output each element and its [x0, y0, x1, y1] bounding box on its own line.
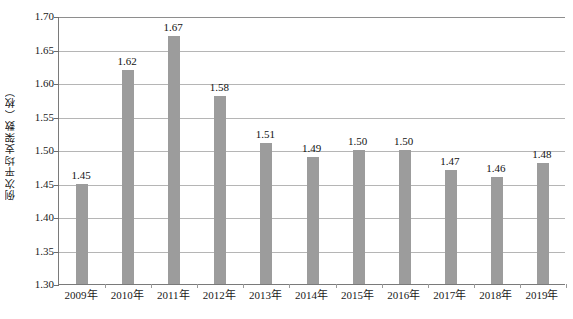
y-axis-tick-label: 1.60	[24, 78, 54, 89]
bar-value-label: 1.50	[336, 136, 380, 147]
bar-value-label: 1.49	[290, 143, 334, 154]
bar-value-label: 1.67	[151, 22, 195, 33]
y-axis-tick-label: 1.65	[24, 45, 54, 56]
bar-chart-figure: 例次平均支架数（枚） 1.301.351.401.451.501.551.601…	[0, 0, 573, 319]
y-axis-tick-label: 1.45	[24, 179, 54, 190]
x-axis-tick-label: 2019年	[512, 289, 572, 301]
bar-value-label: 1.51	[243, 129, 287, 140]
bar-value-label: 1.62	[105, 56, 149, 67]
bar-value-label: 1.50	[382, 136, 426, 147]
y-axis-title-text: 例次平均支架数（枚）	[3, 85, 18, 200]
y-axis-tick-labels: 1.301.351.401.451.501.551.601.651.70	[20, 0, 54, 319]
y-axis-title: 例次平均支架数（枚）	[0, 0, 20, 285]
bar-value-label: 1.46	[474, 163, 518, 174]
x-axis-tick-labels: 2009年2010年2011年2012年2013年2014年2015年2016年…	[58, 0, 565, 319]
bar-value-label: 1.45	[59, 170, 103, 181]
bar-value-label: 1.48	[520, 149, 564, 160]
bar-value-label: 1.47	[428, 156, 472, 167]
y-axis-tick-label: 1.40	[24, 212, 54, 223]
y-axis-tick-label: 1.70	[24, 11, 54, 22]
y-axis-tick-label: 1.35	[24, 246, 54, 257]
bar-value-label: 1.58	[197, 82, 241, 93]
y-axis-tick-label: 1.55	[24, 112, 54, 123]
x-axis-tick-mark	[566, 284, 567, 288]
y-axis-tick-label: 1.30	[24, 279, 54, 290]
y-axis-tick-label: 1.50	[24, 145, 54, 156]
